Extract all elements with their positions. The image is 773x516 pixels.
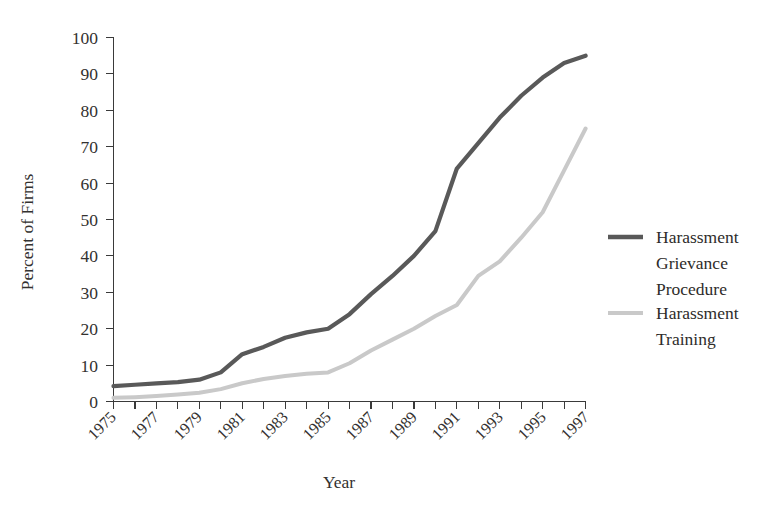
x-tick-label: 1979 <box>170 408 205 443</box>
line-chart: 0 10 20 30 40 50 60 70 80 90 100 <box>0 0 773 516</box>
y-tick-label: 100 <box>72 28 99 48</box>
chart-canvas: 0 10 20 30 40 50 60 70 80 90 100 <box>0 0 773 516</box>
legend-label-line: Harassment <box>656 227 739 247</box>
x-tick-label: 1995 <box>514 408 549 443</box>
y-tick-label: 40 <box>81 246 99 266</box>
x-tick-label: 1993 <box>471 408 506 443</box>
x-tick-label: 1975 <box>84 408 119 443</box>
series-line-harassment-grievance-procedure <box>114 56 586 387</box>
y-tick-label: 60 <box>81 174 99 194</box>
legend-label-line: Harassment <box>656 303 739 323</box>
y-tick-label: 80 <box>81 101 99 121</box>
x-tick-label: 1987 <box>342 408 377 443</box>
y-tick-label: 90 <box>81 64 99 84</box>
y-tick-label: 30 <box>81 283 99 303</box>
x-tick-label: 1997 <box>557 408 592 443</box>
x-tick-label: 1977 <box>127 408 162 443</box>
y-tick-label: 50 <box>81 210 99 230</box>
x-axis-ticks <box>114 402 586 410</box>
plot-area: 0 10 20 30 40 50 60 70 80 90 100 <box>72 28 592 443</box>
x-axis-title: Year <box>323 472 355 492</box>
data-series-group <box>114 56 586 398</box>
legend-label-line: Procedure <box>656 279 727 299</box>
x-axis-tick-labels: 1975 1977 1979 1981 1983 1985 1987 1989 … <box>84 408 592 443</box>
legend-label-line: Grievance <box>656 253 728 273</box>
y-tick-label: 20 <box>81 319 99 339</box>
x-tick-label: 1989 <box>385 408 420 443</box>
x-tick-label: 1991 <box>428 408 463 443</box>
series-line-harassment-training <box>114 129 586 398</box>
x-tick-label: 1985 <box>299 408 334 443</box>
y-tick-label: 10 <box>81 356 99 376</box>
x-tick-label: 1983 <box>256 408 291 443</box>
legend: Harassment Grievance Procedure Harassmen… <box>608 227 739 349</box>
y-axis-ticks <box>106 38 113 402</box>
legend-label-line: Training <box>656 329 716 349</box>
y-tick-label: 0 <box>89 392 98 412</box>
x-tick-label: 1981 <box>213 408 248 443</box>
y-tick-label: 70 <box>81 137 99 157</box>
y-axis-tick-labels: 0 10 20 30 40 50 60 70 80 90 100 <box>72 28 99 412</box>
y-axis-title: Percent of Firms <box>17 173 37 290</box>
